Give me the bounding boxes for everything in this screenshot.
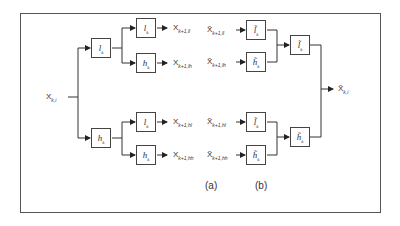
highpass-filter-box: hk	[91, 128, 111, 148]
lowpass-filter-box: lk	[91, 38, 111, 58]
synthesis-highpass-box: h̃k	[290, 127, 310, 147]
subband-output-label: Xk+1,ll	[173, 23, 190, 34]
synthesis-highpass-box: h̃k	[246, 145, 266, 165]
highpass-filter-box: hk	[136, 145, 156, 165]
subband-input-label: X̃k+1,ll	[207, 25, 224, 36]
synthesis-lowpass-box: l̃k	[290, 35, 310, 55]
synthesis-lowpass-box: l̃k	[246, 20, 266, 40]
reconstructed-output-label: X̃k,i	[338, 84, 348, 95]
lowpass-filter-box: lk	[136, 112, 156, 132]
caption-a: (a)	[205, 180, 217, 191]
subband-input-label: X̃k+1,lh	[207, 57, 226, 68]
synthesis-lowpass-box: l̃k	[246, 112, 266, 132]
caption-b: (b)	[255, 180, 267, 191]
synthesis-highpass-box: h̃k	[246, 52, 266, 72]
subband-input-label: X̃k+1,hl	[207, 117, 226, 128]
subband-output-label: Xk+1,hh	[173, 150, 194, 161]
lowpass-filter-box: lk	[136, 18, 156, 38]
subband-output-label: Xk+1,hl	[173, 117, 192, 128]
subband-output-label: Xk+1,lh	[173, 58, 192, 69]
highpass-filter-box: hk	[136, 53, 156, 73]
connector-lines	[0, 0, 400, 226]
input-signal-label: Xk,i	[46, 92, 56, 103]
subband-input-label: X̃k+1,hh	[207, 150, 228, 161]
